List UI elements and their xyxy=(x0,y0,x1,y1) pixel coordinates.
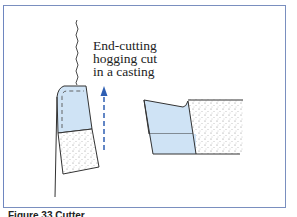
casting-workpiece-left xyxy=(58,129,99,174)
break-line xyxy=(76,20,78,85)
figure-caption: Figure 33 Cutter xyxy=(8,211,85,217)
cutting-tool-left xyxy=(57,86,92,133)
work-surface-line xyxy=(55,97,57,197)
casting-workpiece-right xyxy=(188,99,243,154)
annotation-line-3: in a casting xyxy=(93,65,157,78)
cutting-diagram xyxy=(0,0,297,217)
annotation-label: End-cutting hogging cut in a casting xyxy=(93,39,157,78)
feed-arrow-icon xyxy=(101,86,108,150)
